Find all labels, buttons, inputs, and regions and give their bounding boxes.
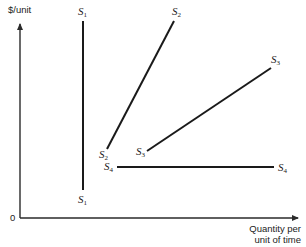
s4-right-label: S4 (278, 161, 288, 175)
s1-top-label: S1 (78, 5, 88, 19)
s1-bottom-label: S1 (78, 193, 88, 207)
x-axis-label-line2: unit of time (255, 234, 301, 245)
y-axis-label: $/unit (8, 4, 32, 15)
s3-top-label: S3 (271, 53, 281, 67)
s2-top-label: S2 (172, 5, 182, 19)
supply-curve-s2 (107, 21, 174, 149)
supply-elasticity-diagram: $/unit 0 Quantity per unit of time S1 S1… (0, 0, 306, 247)
s4-left-label: S4 (104, 160, 114, 174)
origin-label: 0 (10, 212, 15, 223)
s3-bottom-label: S3 (136, 145, 146, 159)
x-axis-label-line1: Quantity per (249, 223, 301, 234)
supply-curve-s3 (147, 68, 271, 151)
